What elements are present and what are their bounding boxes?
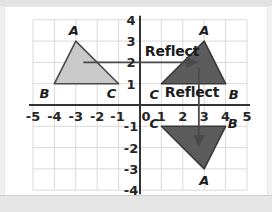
vertex-label-original-b: B	[39, 86, 49, 99]
vertex-label-original-c: C	[107, 86, 117, 99]
vertex-label-reflected-y-c: C	[150, 87, 160, 100]
figure-container: -5-4-3-2-10123454321-1-2-3-4ABCACBCBARef…	[0, 0, 272, 212]
vertex-label-reflected-x-a: A	[199, 173, 209, 186]
x-axis-label--1: -1	[110, 110, 124, 123]
vertex-label-reflected-x-b: B	[228, 117, 238, 130]
x-axis-label-3: 3	[200, 110, 209, 123]
reflect-label-horizontal: Reflect	[145, 44, 199, 58]
x-axis-label--5: -5	[26, 110, 40, 123]
reflect-label-vertical: Reflect	[165, 85, 219, 99]
vertex-label-original-a: A	[69, 24, 79, 37]
x-axis-label-5: 5	[242, 110, 251, 123]
axes-group	[29, 16, 250, 194]
y-axis-label-4: 4	[126, 13, 135, 26]
vertex-label-reflected-y-b: B	[229, 87, 239, 100]
y-axis-label--3: -3	[124, 162, 138, 175]
x-axis-label--2: -2	[90, 110, 104, 123]
x-axis-label-2: 2	[178, 110, 187, 123]
y-axis-label--4: -4	[124, 184, 138, 197]
y-axis-label-1: 1	[126, 77, 135, 90]
coordinate-plane-svg	[0, 0, 272, 212]
y-axis-label--2: -2	[124, 141, 138, 154]
y-axis-label-3: 3	[126, 35, 135, 48]
vertex-label-reflected-y-a: A	[199, 24, 209, 37]
x-axis-label--4: -4	[47, 110, 61, 123]
y-axis-label--1: -1	[124, 120, 138, 133]
y-axis-label-2: 2	[126, 56, 135, 69]
x-axis-label--3: -3	[69, 110, 83, 123]
vertex-label-reflected-x-c: C	[150, 117, 160, 130]
